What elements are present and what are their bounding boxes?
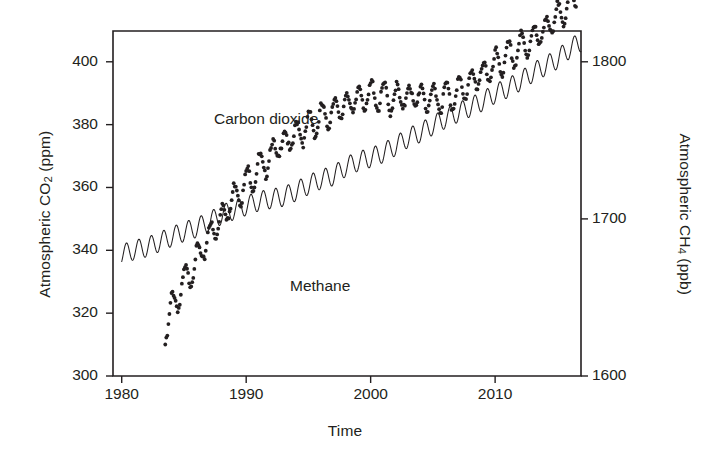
methane-data-point <box>408 87 412 91</box>
methane-data-point <box>492 57 496 61</box>
methane-data-point <box>428 99 432 103</box>
methane-data-point <box>432 82 436 86</box>
methane-data-point <box>347 98 351 102</box>
methane-data-point <box>446 81 450 85</box>
methane-data-point <box>563 22 567 26</box>
methane-data-point <box>396 83 400 87</box>
methane-data-point <box>193 258 197 262</box>
methane-data-point <box>178 303 182 307</box>
methane-data-point <box>440 105 444 109</box>
methane-data-point <box>263 169 267 173</box>
methane-data-point <box>269 146 273 150</box>
y-left-tick-label: 340 <box>38 240 98 258</box>
methane-data-point <box>287 140 291 144</box>
methane-data-point <box>459 78 463 82</box>
methane-data-point <box>204 249 208 253</box>
methane-data-point <box>411 99 415 103</box>
methane-data-point <box>203 257 207 261</box>
methane-data-point <box>467 76 471 80</box>
methane-data-point <box>527 49 531 53</box>
methane-data-point <box>239 205 243 209</box>
methane-data-point <box>364 108 368 112</box>
series-label-carbon-dioxide: Carbon dioxide <box>214 110 318 128</box>
methane-data-point <box>373 96 377 100</box>
methane-data-point <box>192 267 196 271</box>
methane-data-point <box>223 208 227 212</box>
methane-data-point <box>426 110 430 114</box>
methane-data-point <box>322 105 326 109</box>
methane-data-point <box>566 0 570 4</box>
methane-data-point <box>542 26 546 30</box>
methane-data-point <box>215 232 219 236</box>
methane-data-point <box>329 111 333 115</box>
methane-data-point <box>315 132 319 136</box>
methane-data-point <box>535 33 539 37</box>
methane-data-point <box>540 36 544 40</box>
plot-frame <box>113 31 581 376</box>
methane-data-point <box>474 80 478 84</box>
methane-data-point <box>460 85 464 89</box>
methane-data-point <box>377 109 381 113</box>
methane-data-point <box>367 92 371 96</box>
methane-data-point <box>553 15 557 19</box>
methane-data-point <box>214 237 218 241</box>
methane-data-point <box>534 25 538 29</box>
methane-data-point <box>547 24 551 28</box>
x-tick-label: 1980 <box>87 385 157 403</box>
methane-data-point <box>514 63 518 67</box>
methane-data-point <box>433 87 437 91</box>
carbon-dioxide-line <box>122 36 581 262</box>
methane-data-point <box>337 110 341 114</box>
methane-data-point <box>235 189 239 193</box>
methane-data-point <box>388 114 392 118</box>
methane-data-point <box>523 49 527 53</box>
methane-data-point <box>564 16 568 20</box>
methane-data-point <box>454 94 458 98</box>
y-axis-right-title: Atmospheric CH4 (ppb) <box>676 49 694 379</box>
methane-data-point <box>391 106 395 110</box>
methane-data-point <box>260 154 264 158</box>
methane-data-point <box>328 121 332 125</box>
methane-data-point <box>484 64 488 68</box>
methane-data-point <box>198 246 202 250</box>
methane-data-point <box>302 136 306 140</box>
methane-data-point <box>560 16 564 20</box>
methane-data-point <box>358 87 362 91</box>
methane-data-point <box>488 79 492 83</box>
methane-data-point <box>184 263 188 267</box>
methane-data-point <box>423 98 427 102</box>
methane-data-point <box>165 334 169 338</box>
methane-data-point <box>515 56 519 60</box>
methane-data-point <box>478 78 482 82</box>
methane-data-point <box>509 43 513 47</box>
methane-data-point <box>221 204 225 208</box>
methane-data-point <box>303 129 307 133</box>
methane-data-point <box>448 92 452 96</box>
methane-data-point <box>270 143 274 147</box>
methane-data-point <box>476 88 480 92</box>
methane-data-point <box>327 126 331 130</box>
methane-data-point <box>346 94 350 98</box>
methane-data-point <box>437 107 441 111</box>
methane-data-point <box>385 94 389 98</box>
methane-data-point <box>248 181 252 185</box>
methane-data-point <box>300 141 304 145</box>
methane-data-point <box>353 101 357 105</box>
methane-data-point <box>360 98 364 102</box>
methane-data-point <box>526 53 530 57</box>
y-left-tick-label: 380 <box>38 115 98 133</box>
methane-data-point <box>434 94 438 98</box>
methane-data-point <box>427 104 431 108</box>
methane-data-point <box>453 102 457 106</box>
methane-data-point <box>292 134 296 138</box>
methane-data-point <box>253 186 257 190</box>
methane-data-point <box>341 112 345 116</box>
x-tick-label: 2010 <box>460 385 530 403</box>
methane-data-point <box>530 34 534 38</box>
chart-figure: Atmospheric CO2 (ppm) Atmospheric CH4 (p… <box>0 0 720 455</box>
methane-data-point <box>217 220 221 224</box>
y-left-tick-label: 320 <box>38 303 98 321</box>
methane-data-point <box>348 101 352 105</box>
methane-data-point <box>297 128 301 132</box>
methane-data-point <box>520 31 524 35</box>
